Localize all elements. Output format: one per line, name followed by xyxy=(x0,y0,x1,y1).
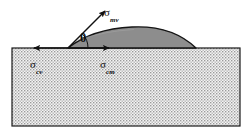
substrate-block xyxy=(12,48,240,126)
substrate-rect xyxy=(12,48,240,126)
figure-canvas xyxy=(0,0,252,133)
contact-angle-figure: σmv σcv σcm θ xyxy=(0,0,252,133)
droplet-shape xyxy=(68,27,196,48)
